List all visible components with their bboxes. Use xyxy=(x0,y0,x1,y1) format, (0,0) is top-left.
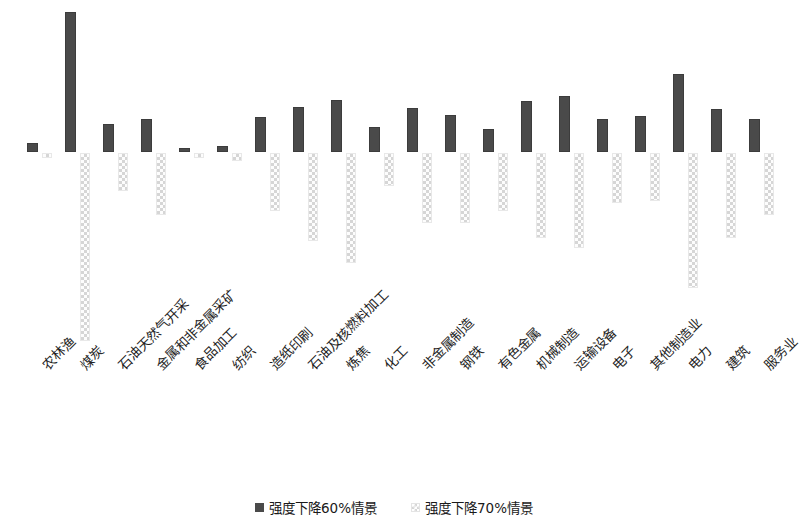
bar-group xyxy=(400,0,438,355)
bar-series-1[interactable] xyxy=(369,127,380,152)
bar-series-2[interactable] xyxy=(536,153,546,238)
bar-series-1[interactable] xyxy=(483,129,494,152)
bar-series-2[interactable] xyxy=(42,153,52,158)
bar-series-2[interactable] xyxy=(156,153,166,215)
category-label-slot: 其他制造业 xyxy=(628,355,666,485)
bar-series-1[interactable] xyxy=(65,12,76,152)
bar-group xyxy=(590,0,628,355)
bar-series-1[interactable] xyxy=(445,115,456,152)
bar-group xyxy=(20,0,58,355)
bar-series-1[interactable] xyxy=(179,148,190,152)
bar-series-2[interactable] xyxy=(118,153,128,191)
bar-group xyxy=(134,0,172,355)
bar-group xyxy=(438,0,476,355)
category-label-slot: 电子 xyxy=(590,355,628,485)
bar-series-1[interactable] xyxy=(217,146,228,152)
plot-area xyxy=(0,0,788,355)
category-label-slot: 石油及核燃料加工 xyxy=(286,355,324,485)
category-label-slot: 有色金属 xyxy=(476,355,514,485)
bar-group xyxy=(324,0,362,355)
bar-group xyxy=(476,0,514,355)
category-label-slot: 造纸印刷 xyxy=(248,355,286,485)
bar-group xyxy=(704,0,742,355)
bar-series-1[interactable] xyxy=(103,124,114,152)
bar-group xyxy=(96,0,134,355)
chart-legend: 强度下降60%情景 强度下降70%情景 xyxy=(0,497,788,517)
category-label-slot: 建筑 xyxy=(704,355,742,485)
legend-item-series-2[interactable]: 强度下降70%情景 xyxy=(411,497,533,517)
category-label-slot: 服务业 xyxy=(742,355,780,485)
category-label-slot: 纺织 xyxy=(210,355,248,485)
bar-series-2[interactable] xyxy=(232,153,242,161)
bar-series-1[interactable] xyxy=(331,100,342,152)
category-label-slot: 食品加工 xyxy=(172,355,210,485)
bar-series-1[interactable] xyxy=(521,101,532,152)
category-label-slot: 钢铁 xyxy=(438,355,476,485)
bar-group xyxy=(628,0,666,355)
bar-series-1[interactable] xyxy=(293,107,304,152)
bar-series-2[interactable] xyxy=(308,153,318,241)
bar-series-2[interactable] xyxy=(688,153,698,288)
bar-series-2[interactable] xyxy=(650,153,660,201)
bar-group xyxy=(286,0,324,355)
category-label-slot: 炼焦 xyxy=(324,355,362,485)
bar-series-2[interactable] xyxy=(384,153,394,186)
bar-series-1[interactable] xyxy=(27,143,38,152)
bar-series-2[interactable] xyxy=(764,153,774,215)
bar-series-1[interactable] xyxy=(635,116,646,152)
bar-group xyxy=(58,0,96,355)
legend-label-series-1: 强度下降60%情景 xyxy=(269,497,377,517)
category-label-slot: 机械制造 xyxy=(514,355,552,485)
bar-group xyxy=(514,0,552,355)
bar-group xyxy=(248,0,286,355)
bar-series-2[interactable] xyxy=(498,153,508,211)
bar-series-1[interactable] xyxy=(559,96,570,152)
category-label-slot: 运输设备 xyxy=(552,355,590,485)
bar-series-1[interactable] xyxy=(407,108,418,152)
bar-series-2[interactable] xyxy=(574,153,584,248)
bar-series-2[interactable] xyxy=(726,153,736,238)
bar-series-2[interactable] xyxy=(346,153,356,263)
bar-series-1[interactable] xyxy=(141,119,152,152)
bar-series-1[interactable] xyxy=(597,119,608,152)
bar-group xyxy=(666,0,704,355)
bar-series-2[interactable] xyxy=(194,153,204,158)
legend-solid-square-icon xyxy=(255,503,264,512)
bar-series-2[interactable] xyxy=(612,153,622,203)
bar-series-2[interactable] xyxy=(80,153,90,341)
bar-series-1[interactable] xyxy=(673,74,684,152)
bar-series-2[interactable] xyxy=(270,153,280,211)
bar-series-1[interactable] xyxy=(711,109,722,152)
category-label-slot: 电力 xyxy=(666,355,704,485)
bar-series-1[interactable] xyxy=(749,119,760,152)
category-label-slot: 非金属制造 xyxy=(400,355,438,485)
category-label-slot: 金属和非金属采矿 xyxy=(134,355,172,485)
bar-series-1[interactable] xyxy=(255,117,266,152)
category-label-slot: 化工 xyxy=(362,355,400,485)
bar-group xyxy=(552,0,590,355)
legend-item-series-1[interactable]: 强度下降60%情景 xyxy=(255,497,377,517)
category-label-slot: 煤炭 xyxy=(58,355,96,485)
bar-series-2[interactable] xyxy=(460,153,470,223)
category-label-slot: 农林渔 xyxy=(20,355,58,485)
legend-label-series-2: 强度下降70%情景 xyxy=(425,497,533,517)
bar-series-2[interactable] xyxy=(422,153,432,223)
category-label-slot: 石油天然气开采 xyxy=(96,355,134,485)
legend-cross-hatch-square-icon xyxy=(411,503,420,512)
category-axis-labels: 农林渔煤炭石油天然气开采金属和非金属采矿食品加工纺织造纸印刷石油及核燃料加工炼焦… xyxy=(0,355,788,485)
bar-group xyxy=(742,0,780,355)
